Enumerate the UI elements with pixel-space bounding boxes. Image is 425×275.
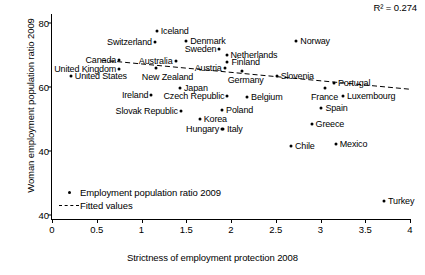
data-point — [223, 66, 226, 69]
data-point — [154, 66, 157, 69]
data-point-label: Finland — [231, 57, 259, 67]
data-point-label: Turkey — [388, 196, 414, 206]
data-point-label: Slovenia — [281, 71, 314, 81]
data-point — [118, 58, 121, 61]
data-point — [174, 60, 177, 63]
r-squared-annotation: R² = 0.274 — [373, 2, 417, 13]
data-point — [226, 94, 229, 97]
x-axis-tick-label: 4 — [407, 224, 412, 235]
x-axis-tick-mark — [97, 219, 98, 223]
x-axis-tick-mark — [410, 219, 411, 223]
data-point-label: Iceland — [161, 26, 189, 36]
y-axis-tick-mark — [48, 215, 52, 216]
data-point-label: France — [311, 92, 338, 102]
x-axis-tick-label: 2.5 — [269, 224, 282, 235]
data-point — [341, 94, 344, 97]
data-point — [150, 94, 153, 97]
data-point-label: Canada — [85, 55, 116, 65]
x-axis-tick-mark — [186, 219, 187, 223]
x-axis-tick-label: 0 — [49, 224, 54, 235]
data-point — [289, 145, 292, 148]
y-axis-title: Woman employment population ratio 2009 — [25, 6, 36, 206]
data-point-label: Australia — [139, 56, 173, 66]
data-point — [295, 39, 298, 42]
data-point-label: Sweden — [185, 44, 217, 54]
y-axis-tick-mark — [48, 151, 52, 152]
data-point — [383, 200, 386, 203]
data-point — [198, 118, 201, 121]
data-point-label: Hungary — [186, 124, 219, 134]
data-point — [221, 109, 224, 112]
data-point — [225, 54, 228, 57]
y-axis-tick-mark — [48, 87, 52, 88]
data-point-label: Norway — [300, 36, 330, 46]
data-point-label: Italy — [227, 124, 243, 134]
x-axis-tick-label: 1 — [139, 224, 144, 235]
data-point — [221, 127, 224, 130]
data-point-label: Mexico — [340, 139, 368, 149]
data-point-label: Austria — [195, 63, 222, 73]
x-axis-tick-label: 0.5 — [90, 224, 103, 235]
data-point-label: Czech Republic — [163, 91, 224, 101]
legend-item-markers: Employment population ratio 2009 — [58, 186, 221, 199]
scatter-chart: R² = 0.274 Woman employment population r… — [0, 0, 425, 275]
data-point — [246, 96, 249, 99]
data-point — [178, 86, 181, 89]
x-axis-tick-mark — [142, 219, 143, 223]
data-point — [320, 107, 323, 110]
data-point — [155, 29, 158, 32]
x-axis-tick-label: 1.5 — [180, 224, 193, 235]
data-point-label: United States — [75, 71, 127, 81]
data-point-label: Ireland — [122, 90, 148, 100]
data-point-label: Luxembourg — [347, 91, 396, 101]
x-axis-tick-mark — [52, 219, 53, 223]
data-point-label: Greece — [316, 119, 345, 129]
y-axis-tick-mark — [48, 23, 52, 24]
x-axis-tick-mark — [276, 219, 277, 223]
data-point-label: Spain — [325, 103, 347, 113]
data-point — [240, 70, 243, 73]
data-point — [310, 123, 313, 126]
data-point — [275, 75, 278, 78]
legend-label-fitted: Fitted values — [80, 200, 133, 211]
data-point — [153, 40, 156, 43]
x-axis-tick-mark — [321, 219, 322, 223]
legend-dashed-line-icon — [58, 205, 80, 206]
legend-item-fitted: Fitted values — [58, 199, 221, 212]
data-point — [323, 86, 326, 89]
data-point — [179, 110, 182, 113]
data-point-label: Switzerland — [107, 37, 152, 47]
data-point — [226, 60, 229, 63]
x-axis-tick-label: 2 — [228, 224, 233, 235]
data-point — [69, 75, 72, 78]
x-axis-tick-mark — [365, 219, 366, 223]
data-point — [218, 47, 221, 50]
data-point-label: Slovak Republic — [116, 106, 178, 116]
data-point-label: Korea — [204, 114, 227, 124]
legend-marker-icon — [58, 191, 80, 194]
data-point — [332, 81, 335, 84]
data-point — [334, 142, 337, 145]
x-axis-tick-label: 3 — [318, 224, 323, 235]
data-point-label: Poland — [226, 105, 253, 115]
data-point-label: Belgium — [251, 92, 282, 102]
chart-legend: Employment population ratio 2009 Fitted … — [58, 186, 221, 212]
legend-label-markers: Employment population ratio 2009 — [80, 187, 221, 198]
x-axis-title: Strictness of employment protection 2008 — [0, 252, 425, 263]
data-point-label: Germany — [228, 75, 264, 85]
data-point-label: Chile — [295, 141, 315, 151]
x-axis-tick-label: 3.5 — [359, 224, 372, 235]
data-point — [185, 39, 188, 42]
x-axis-tick-mark — [231, 219, 232, 223]
data-point-label: New Zealand — [142, 72, 193, 82]
data-point-label: Portugal — [338, 78, 370, 88]
